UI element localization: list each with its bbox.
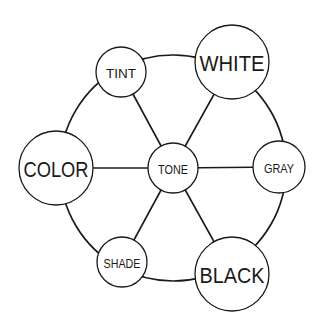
- tone-diagram: TONECOLORTINTWHITEGRAYBLACKSHADE: [0, 0, 327, 336]
- node-gray: GRAY: [253, 141, 305, 193]
- node-color: COLOR: [19, 131, 93, 205]
- node-shade-label: SHADE: [104, 256, 141, 271]
- node-color-label: COLOR: [24, 157, 89, 182]
- node-gray-label: GRAY: [264, 161, 294, 176]
- node-white-label: WHITE: [200, 51, 265, 76]
- node-black: BLACK: [195, 237, 269, 311]
- node-shade: SHADE: [97, 237, 147, 287]
- node-tone-label: TONE: [158, 162, 188, 177]
- nodes: TONECOLORTINTWHITEGRAYBLACKSHADE: [19, 25, 305, 311]
- node-tint: TINT: [96, 47, 146, 97]
- node-tone: TONE: [148, 143, 198, 193]
- node-tint-label: TINT: [106, 66, 136, 81]
- node-black-label: BLACK: [200, 263, 265, 288]
- node-white: WHITE: [195, 25, 269, 99]
